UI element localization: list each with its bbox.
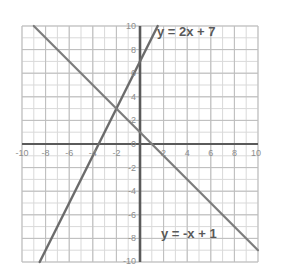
y-tick-neg4: -4	[128, 186, 136, 196]
x-tick-pos4: 4	[185, 148, 190, 158]
y-tick-pos6: 6	[131, 68, 136, 78]
x-tick-neg2: -2	[112, 148, 120, 158]
y-tick-neg2: -2	[128, 163, 136, 173]
y-tick-neg6: -6	[128, 210, 136, 220]
x-tick-neg6: -6	[65, 148, 73, 158]
equation-label-line-one: y = 2x + 7	[157, 24, 216, 39]
y-tick-pos10: 10	[126, 21, 136, 31]
coordinate-graph-figure: -10 -8 -6 -4 -2 2 4 6 8 10 10 8 6 4 2 0 …	[0, 0, 282, 280]
x-tick-pos2: 2	[161, 148, 166, 158]
y-tick-pos2: 2	[131, 115, 136, 125]
y-tick-pos8: 8	[131, 45, 136, 55]
x-tick-neg10: -10	[15, 148, 28, 158]
equation-label-line-two: y = -x + 1	[161, 226, 217, 241]
graph-canvas: -10 -8 -6 -4 -2 2 4 6 8 10 10 8 6 4 2 0 …	[0, 0, 282, 280]
y-tick-neg8: -8	[128, 233, 136, 243]
x-tick-neg4: -4	[89, 148, 97, 158]
x-tick-pos10: 10	[251, 148, 261, 158]
y-tick-zero: 0	[131, 139, 136, 149]
y-tick-pos4: 4	[131, 92, 136, 102]
x-tick-pos8: 8	[232, 148, 237, 158]
x-tick-neg8: -8	[42, 148, 50, 158]
x-tick-pos6: 6	[208, 148, 213, 158]
y-tick-neg10: -10	[123, 256, 136, 266]
